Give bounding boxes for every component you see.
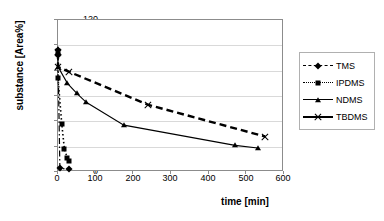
- series-line-tbdms: [58, 52, 265, 137]
- legend-key-ndms: [303, 93, 333, 107]
- legend-label: NDMS: [333, 95, 363, 105]
- series-line-ndms: [58, 49, 258, 148]
- chart-figure: 120 100 80 60 40 20 0 0 100 200 300 400 …: [0, 0, 384, 221]
- x-tick-label: 0: [42, 174, 72, 183]
- plot-area: [57, 19, 283, 171]
- x-marker-icon: [314, 112, 323, 121]
- x-tick-label: 300: [155, 174, 185, 183]
- x-marker-icon: [261, 132, 270, 141]
- x-marker-icon: [65, 67, 74, 76]
- square-marker-icon: [316, 80, 321, 85]
- x-tick-label: 400: [193, 174, 223, 183]
- diamond-marker-icon: [314, 62, 321, 69]
- x-tick-label: 500: [231, 174, 261, 183]
- x-marker-icon: [54, 47, 63, 56]
- x-marker-icon: [54, 62, 63, 71]
- chart-legend: TMS IPDMS NDMS TBDMS: [299, 52, 375, 130]
- triangle-marker-icon: [121, 122, 127, 127]
- triangle-marker-icon: [83, 100, 89, 105]
- square-marker-icon: [67, 158, 72, 163]
- legend-item-ndms: NDMS: [303, 91, 371, 108]
- legend-label: TMS: [333, 61, 355, 71]
- legend-label: IPDMS: [333, 78, 365, 88]
- triangle-marker-icon: [74, 91, 80, 96]
- x-axis-title: time [min]: [185, 196, 305, 207]
- legend-item-tms: TMS: [303, 57, 371, 74]
- legend-key-tms: [303, 59, 333, 73]
- legend-label: TBDMS: [333, 112, 368, 122]
- x-tick-label: 100: [80, 174, 110, 183]
- legend-key-tbdms: [303, 110, 333, 124]
- series-lines: [58, 20, 284, 172]
- legend-item-ipdms: IPDMS: [303, 74, 371, 91]
- triangle-marker-icon: [232, 143, 238, 148]
- legend-key-ipdms: [303, 76, 333, 90]
- x-marker-icon: [144, 100, 153, 109]
- triangle-marker-icon: [315, 97, 321, 102]
- square-marker-icon: [59, 121, 64, 126]
- x-tick-label: 200: [118, 174, 148, 183]
- triangle-marker-icon: [64, 81, 70, 86]
- square-marker-icon: [56, 76, 61, 81]
- triangle-marker-icon: [255, 145, 261, 150]
- y-axis-title: substance [Area%]: [14, 0, 25, 141]
- x-tick-label: 600: [268, 174, 298, 183]
- legend-item-tbdms: TBDMS: [303, 108, 371, 125]
- square-marker-icon: [62, 147, 67, 152]
